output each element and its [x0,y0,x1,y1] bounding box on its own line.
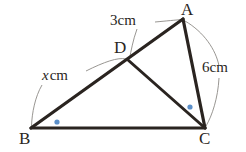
geometry-figure: A B C D 3cm xcm 6cm [0,0,246,152]
measure-unit-ac: cm [210,59,228,75]
dimension-arc-6cm-lower [206,78,219,126]
measure-label-bd: xcm [42,68,68,83]
vertex-label-B: B [19,130,30,147]
vertex-label-A: A [181,1,193,18]
vertex-label-D: D [114,39,126,56]
measure-label-ad: 3cm [110,13,136,28]
vertex-label-C: C [199,130,210,147]
measure-value-ac: 6 [202,59,210,75]
measure-value-bd: x [42,67,50,83]
measure-unit-ad: cm [118,12,136,28]
measure-value-ad: 3 [110,12,118,28]
angle-marker-B [54,119,59,124]
angle-markers [54,104,192,124]
measure-label-ac: 6cm [202,60,228,75]
measure-unit-bd: cm [50,67,68,83]
angle-marker-C [187,104,192,109]
